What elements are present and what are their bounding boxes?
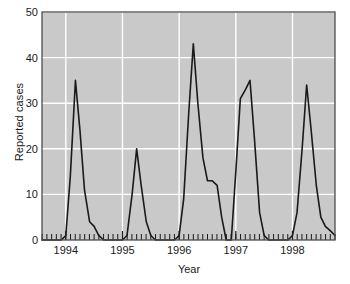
x-tick-label: 1996 <box>154 244 204 256</box>
chart-figure: 01020304050 19941995199619971998 Reporte… <box>0 0 350 284</box>
y-tick-label: 50 <box>8 6 38 18</box>
x-tick-label: 1995 <box>97 244 147 256</box>
chart-canvas <box>0 0 350 284</box>
plot-area <box>42 12 335 240</box>
y-axis-label: Reported cases <box>13 52 25 192</box>
x-axis-label: Year <box>42 263 336 275</box>
y-tick-label: 0 <box>8 234 38 246</box>
x-tick-label: 1994 <box>41 244 91 256</box>
x-tick-label: 1998 <box>267 244 317 256</box>
x-tick-label: 1997 <box>211 244 261 256</box>
